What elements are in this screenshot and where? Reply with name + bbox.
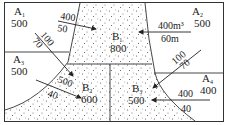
svg-text:400: 400 bbox=[200, 84, 217, 96]
flow-label-a1-b1-top: 400 bbox=[60, 10, 76, 23]
flow-label-a2-b1-bottom: 60m bbox=[161, 33, 179, 44]
svg-text:800: 800 bbox=[110, 42, 127, 54]
flow-label-a2-b1-top: 400m³ bbox=[158, 20, 184, 31]
svg-text:600: 600 bbox=[81, 93, 98, 105]
svg-text:500: 500 bbox=[11, 17, 28, 29]
svg-text:500: 500 bbox=[11, 65, 28, 77]
flow-label-a4-b3-top: 400 bbox=[178, 88, 193, 99]
flow-label-a1-b1-bottom: 50 bbox=[57, 22, 68, 34]
region-a1: A1 500 bbox=[11, 5, 28, 29]
region-a2: A2 500 bbox=[192, 5, 211, 29]
region-a3: A3 500 bbox=[11, 53, 28, 77]
region-a4: A4 400 bbox=[200, 72, 217, 96]
flow-label-a4-b3-bottom: 40 bbox=[181, 103, 191, 114]
svg-text:500: 500 bbox=[194, 17, 211, 29]
supply-demand-diagram: A1 500 A2 500 A3 500 A4 400 B1 800 B2 60… bbox=[0, 0, 228, 125]
svg-text:500: 500 bbox=[128, 94, 145, 106]
